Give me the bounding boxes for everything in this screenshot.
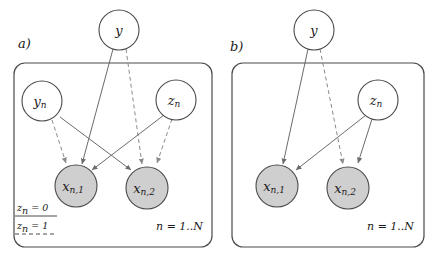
diagram-canvas: a) y — [0, 0, 436, 267]
panel-b-label: b) — [230, 39, 243, 54]
panel-a-label: a) — [18, 36, 31, 51]
panel-b-plate-label: n = 1..N — [367, 220, 414, 233]
panel-a-legend: zn = 0 zn = 1 — [15, 202, 57, 235]
legend-item-1-label: zn = 1 — [16, 220, 48, 234]
edge-y-to-xn1 — [283, 49, 308, 164]
edge-zn-to-xn1 — [296, 115, 366, 170]
graphical-model-figure: a) y — [0, 0, 436, 267]
panel-b: b) y zn xn,1 — [230, 10, 424, 247]
node-y-a[interactable]: y — [99, 10, 139, 50]
panel-a-edges — [52, 49, 172, 170]
legend-item-0-label: zn = 0 — [16, 202, 48, 216]
edge-y-to-xn2 — [320, 49, 343, 164]
edge-zn-to-xn1 — [92, 115, 164, 170]
node-xn1-a[interactable]: xn,1 — [55, 165, 97, 207]
node-y-a-label: y — [114, 23, 123, 38]
node-xn2-b[interactable]: xn,2 — [327, 167, 369, 209]
panel-a-plate-label: n = 1..N — [156, 220, 203, 233]
node-zn-a[interactable]: zn — [156, 80, 196, 120]
node-yn-a[interactable]: yn — [22, 81, 62, 121]
edge-zn-to-xn2 — [358, 119, 372, 163]
edge-y-to-xn1 — [82, 49, 113, 164]
node-xn1-b[interactable]: xn,1 — [256, 165, 298, 207]
panel-a: a) y — [14, 10, 212, 247]
panel-b-edges — [283, 49, 372, 170]
node-y-b-label: y — [309, 23, 318, 38]
edge-zn-to-xn2 — [157, 119, 172, 163]
edge-y-to-xn2 — [126, 49, 142, 164]
edge-yn-to-xn2 — [60, 117, 131, 170]
node-zn-b[interactable]: zn — [358, 80, 398, 120]
node-xn2-a[interactable]: xn,2 — [126, 167, 168, 209]
node-y-b[interactable]: y — [294, 10, 334, 50]
edge-yn-to-xn1 — [52, 120, 66, 163]
